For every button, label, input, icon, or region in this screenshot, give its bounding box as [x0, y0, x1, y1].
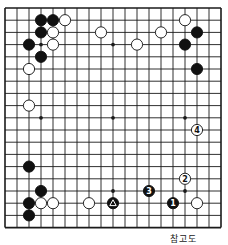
white-stone	[131, 39, 142, 50]
star-point	[183, 116, 187, 120]
move-number-label: 4	[194, 126, 200, 135]
black-stone	[47, 15, 58, 26]
white-stone	[191, 198, 202, 209]
white-stone	[179, 15, 190, 26]
star-point	[39, 43, 43, 47]
move-number-label: 2	[182, 175, 188, 184]
white-stone	[47, 198, 58, 209]
white-stone	[23, 100, 34, 111]
black-stone	[35, 51, 46, 62]
white-stone	[155, 27, 166, 38]
black-stone	[179, 39, 190, 50]
star-point	[111, 116, 115, 120]
black-stone	[35, 27, 46, 38]
black-stone	[191, 27, 202, 38]
black-stone	[23, 198, 34, 209]
white-stone	[95, 27, 106, 38]
white-stone	[35, 198, 46, 209]
star-point	[183, 189, 187, 193]
black-stone	[35, 185, 46, 196]
black-stone	[23, 210, 34, 221]
black-stone	[191, 63, 202, 74]
star-point	[111, 189, 115, 193]
white-stone	[47, 39, 58, 50]
white-stone	[23, 63, 34, 74]
white-stone	[47, 27, 58, 38]
move-number-label: 1	[170, 199, 176, 208]
star-point	[111, 43, 115, 47]
black-stone	[23, 161, 34, 172]
diagram-caption: 참고도	[170, 232, 197, 245]
white-stone	[83, 198, 94, 209]
white-stone	[59, 15, 70, 26]
move-number-label: 3	[146, 187, 152, 196]
star-point	[39, 116, 43, 120]
black-stone	[35, 15, 46, 26]
black-stone	[23, 39, 34, 50]
